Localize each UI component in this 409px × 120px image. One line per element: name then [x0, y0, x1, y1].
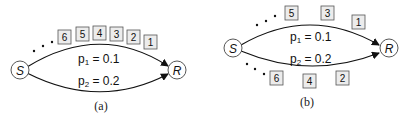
packet-4: 4	[303, 74, 316, 88]
ellipsis-dots-bottom-b	[246, 63, 265, 75]
source-node-a: S	[11, 61, 29, 79]
packet-3: 3	[321, 6, 334, 20]
dest-node-label: R	[385, 42, 394, 56]
path-1-label-a: p1 = 0.1	[78, 52, 120, 67]
svg-text:4: 4	[307, 76, 313, 87]
panel-b: S R p1 = 0.1 p2 = 0.2 5	[224, 6, 398, 109]
packet-6: 6	[270, 71, 283, 85]
panel-a: S R p1 = 0.1 p2 = 0.2 6 5	[11, 26, 186, 113]
svg-text:1: 1	[148, 37, 154, 48]
ellipsis-dots-a	[33, 41, 53, 52]
source-node-label: S	[229, 42, 237, 56]
svg-text:5: 5	[289, 8, 295, 19]
svg-text:2: 2	[340, 73, 346, 84]
svg-text:2: 2	[131, 32, 137, 43]
svg-text:3: 3	[114, 29, 120, 40]
diagram-canvas: S R p1 = 0.1 p2 = 0.2 6 5	[0, 0, 409, 120]
packet-queue-a: 6 5 4 3 2 1	[58, 26, 157, 49]
caption-b: (b)	[300, 95, 314, 109]
source-node-label: S	[16, 64, 24, 78]
packet-5: 5	[76, 27, 89, 41]
svg-text:6: 6	[62, 32, 68, 43]
packet-queue-bottom-b: 6 4 2	[270, 71, 349, 88]
source-node-b: S	[224, 39, 242, 57]
dest-node-label: R	[173, 64, 182, 78]
dest-node-b: R	[380, 39, 398, 57]
svg-text:6: 6	[274, 73, 280, 84]
packet-5: 5	[285, 6, 298, 20]
svg-text:3: 3	[325, 8, 331, 19]
packet-2: 2	[127, 30, 140, 44]
caption-a: (a)	[94, 99, 107, 113]
path-1-label-b: p1 = 0.1	[290, 30, 332, 45]
svg-text:1: 1	[356, 17, 362, 28]
packet-6: 6	[58, 30, 71, 44]
packet-1: 1	[144, 35, 157, 49]
packet-4: 4	[93, 26, 106, 40]
dest-node-a: R	[168, 61, 186, 79]
ellipsis-dots-top-b	[256, 15, 276, 26]
path-2-label-b: p2 = 0.2	[290, 52, 332, 67]
packet-2: 2	[336, 71, 349, 85]
packet-3: 3	[110, 27, 123, 41]
path-2-label-a: p2 = 0.2	[78, 74, 120, 89]
svg-text:5: 5	[80, 29, 86, 40]
packet-1: 1	[352, 15, 365, 29]
svg-text:4: 4	[97, 28, 103, 39]
